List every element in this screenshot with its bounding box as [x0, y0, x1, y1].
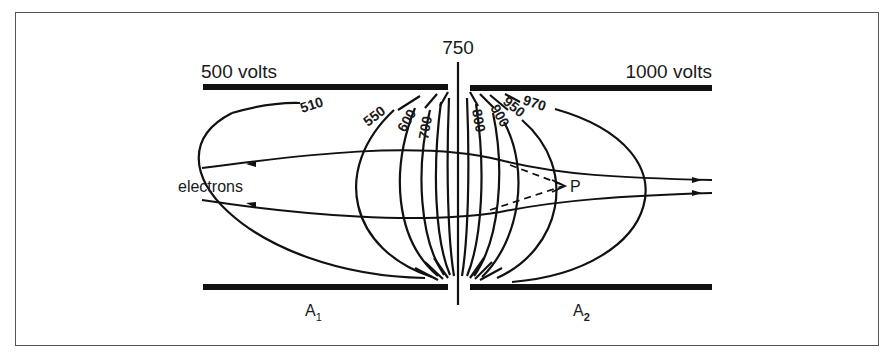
focus-point-label: P — [570, 178, 581, 195]
electron-lens-diagram: 750 500 volts 1000 volts electrons P 510… — [0, 0, 893, 359]
center-voltage-label: 750 — [442, 37, 474, 58]
arrow-icon — [692, 190, 702, 196]
equipotential-850 — [474, 113, 499, 276]
diagram-canvas: 750 500 volts 1000 volts electrons P 510… — [0, 0, 893, 359]
equipotential-900 — [482, 122, 518, 277]
equipotential-740 — [448, 98, 454, 276]
equipotential-950 — [497, 120, 556, 278]
anode-a2-label: A2 — [573, 302, 590, 323]
fan-line — [398, 96, 420, 110]
left-plate-voltage-label: 500 volts — [201, 61, 277, 82]
equipotential-label-550: 550 — [360, 102, 388, 129]
leader-510 — [232, 103, 300, 113]
anode-a1-label: A1 — [305, 302, 322, 323]
equipotential-label-510: 510 — [298, 93, 325, 116]
right-plate-voltage-label: 1000 volts — [625, 61, 712, 82]
equipotential-510 — [199, 113, 425, 278]
electrons-label: electrons — [178, 178, 243, 195]
focus-point-marker — [552, 180, 565, 192]
fan-line — [440, 92, 448, 106]
equipotential-label-700: 700 — [415, 115, 435, 141]
arrow-icon — [692, 177, 702, 183]
equipotential-970 — [512, 109, 646, 282]
equipotential-760 — [462, 98, 468, 276]
fan-line — [470, 92, 478, 106]
equipotential-label-800: 800 — [469, 108, 489, 134]
fan-line — [425, 94, 437, 108]
